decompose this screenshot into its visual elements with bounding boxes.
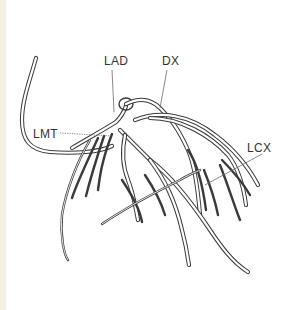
dx-leader-line (160, 70, 167, 108)
lad-leader-line (112, 70, 114, 112)
label-lcx: LCX (247, 142, 271, 154)
coronary-artery-diagram (0, 0, 294, 310)
label-dx: DX (162, 55, 179, 67)
label-lad: LAD (104, 55, 128, 67)
label-lmt: LMT (33, 128, 58, 140)
lmt-leader-line (60, 133, 112, 136)
